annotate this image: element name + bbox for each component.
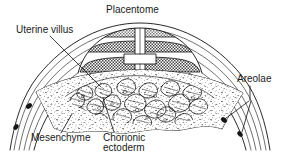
label-uterine-villus: Uterine villus xyxy=(16,24,73,35)
placentome-dome xyxy=(78,27,202,73)
placentome-figure: Placentome Uterine villus Areolae Mesenc… xyxy=(0,0,281,153)
label-mesenchyme: Mesenchyme xyxy=(31,132,91,143)
label-placentome: Placentome xyxy=(106,4,159,15)
label-chorionic-ectoderm-line2: ectoderm xyxy=(103,142,145,153)
placentome-diagram-canvas: Placentome Uterine villus Areolae Mesenc… xyxy=(0,0,281,153)
label-areolae: Areolae xyxy=(237,73,272,84)
